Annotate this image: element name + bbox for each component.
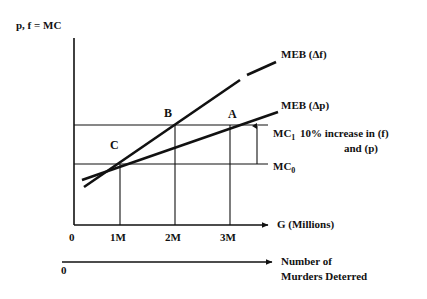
curve-label-meb-delta-p: MEB (Δp)	[281, 99, 329, 111]
x-tick-label-2m: 2M	[165, 231, 181, 243]
x-axis-title: G (Millions)	[277, 218, 334, 230]
mc0-label-base: MC	[273, 160, 291, 172]
secondary-axis-title-line-2: Murders Deterred	[281, 270, 367, 282]
x-tick-label-0: 0	[69, 231, 75, 243]
mc1-label-base: MC	[273, 127, 291, 139]
mc0-label-subscript: 0	[291, 166, 295, 175]
secondary-axis-origin-label: 0	[61, 264, 67, 276]
y-axis-title: p, f = MC	[16, 19, 61, 31]
mc0-label: MC0	[273, 160, 295, 176]
x-tick-label-1m: 1M	[110, 231, 126, 243]
increase-note-line-2: and (p)	[344, 142, 378, 154]
curve-label-meb-delta-f: MEB (Δf)	[281, 48, 327, 60]
secondary-axis-title-line-1: Number of	[281, 255, 332, 267]
point-label-b: B	[164, 107, 172, 120]
economics-diagram: p, f = MC MEB (Δf) MEB (Δp) MC1 MC0 10% …	[0, 0, 427, 299]
point-label-a: A	[228, 108, 237, 121]
point-label-c: C	[110, 139, 119, 152]
mc1-label-subscript: 1	[291, 133, 295, 142]
meb-delta-f-curve-tip	[247, 62, 276, 75]
mc1-label: MC1	[273, 127, 295, 143]
x-tick-label-3m: 3M	[220, 231, 236, 243]
increase-note-line-1: 10% increase in (f)	[300, 127, 389, 139]
